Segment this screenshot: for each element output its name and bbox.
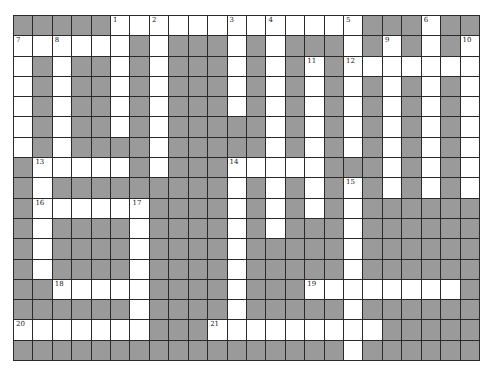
crossword-cell[interactable] (266, 77, 284, 96)
crossword-cell[interactable] (266, 138, 284, 157)
crossword-cell[interactable] (422, 36, 440, 55)
crossword-cell[interactable] (344, 77, 362, 96)
crossword-cell[interactable] (266, 320, 284, 339)
crossword-cell[interactable] (422, 97, 440, 116)
crossword-cell[interactable] (266, 219, 284, 238)
crossword-cell[interactable] (305, 16, 323, 35)
crossword-cell[interactable] (111, 158, 129, 177)
crossword-cell[interactable] (441, 57, 459, 76)
crossword-cell[interactable] (422, 77, 440, 96)
crossword-cell[interactable] (53, 138, 71, 157)
crossword-cell[interactable] (130, 280, 148, 299)
crossword-cell[interactable] (266, 57, 284, 76)
crossword-cell[interactable] (422, 57, 440, 76)
crossword-cell[interactable] (72, 36, 90, 55)
crossword-cell[interactable] (286, 320, 304, 339)
crossword-cell[interactable] (422, 158, 440, 177)
crossword-cell[interactable]: 1 (111, 16, 129, 35)
crossword-cell[interactable] (344, 341, 362, 360)
crossword-cell[interactable] (422, 280, 440, 299)
crossword-cell[interactable] (14, 77, 32, 96)
crossword-cell[interactable] (402, 280, 420, 299)
crossword-cell[interactable] (72, 280, 90, 299)
crossword-cell[interactable] (247, 16, 265, 35)
crossword-cell[interactable] (383, 57, 401, 76)
crossword-cell[interactable] (228, 320, 246, 339)
crossword-cell[interactable] (53, 320, 71, 339)
crossword-cell[interactable] (111, 57, 129, 76)
crossword-cell[interactable] (14, 117, 32, 136)
crossword-cell[interactable] (461, 158, 479, 177)
crossword-cell[interactable] (14, 97, 32, 116)
crossword-cell[interactable] (111, 320, 129, 339)
crossword-cell[interactable] (72, 199, 90, 218)
crossword-cell[interactable]: 12 (344, 57, 362, 76)
crossword-cell[interactable] (92, 36, 110, 55)
crossword-cell[interactable] (92, 199, 110, 218)
crossword-cell[interactable] (111, 36, 129, 55)
crossword-cell[interactable] (228, 280, 246, 299)
crossword-cell[interactable]: 10 (461, 36, 479, 55)
crossword-cell[interactable] (344, 300, 362, 319)
crossword-cell[interactable] (266, 178, 284, 197)
crossword-cell[interactable] (461, 138, 479, 157)
crossword-cell[interactable] (383, 178, 401, 197)
crossword-cell[interactable] (305, 178, 323, 197)
crossword-cell[interactable]: 19 (305, 280, 323, 299)
crossword-cell[interactable] (363, 57, 381, 76)
crossword-cell[interactable] (53, 117, 71, 136)
crossword-cell[interactable] (33, 239, 51, 258)
crossword-cell[interactable]: 3 (228, 16, 246, 35)
crossword-cell[interactable] (228, 97, 246, 116)
crossword-cell[interactable]: 17 (130, 199, 148, 218)
crossword-cell[interactable] (189, 16, 207, 35)
crossword-cell[interactable]: 18 (53, 280, 71, 299)
crossword-cell[interactable] (305, 97, 323, 116)
crossword-cell[interactable]: 2 (150, 16, 168, 35)
crossword-cell[interactable] (228, 77, 246, 96)
crossword-cell[interactable]: 7 (14, 36, 32, 55)
crossword-cell[interactable] (325, 16, 343, 35)
crossword-cell[interactable] (286, 158, 304, 177)
crossword-cell[interactable] (130, 219, 148, 238)
crossword-cell[interactable] (92, 320, 110, 339)
crossword-cell[interactable] (228, 219, 246, 238)
crossword-cell[interactable] (383, 117, 401, 136)
crossword-cell[interactable] (150, 117, 168, 136)
crossword-cell[interactable] (130, 320, 148, 339)
crossword-cell[interactable] (305, 199, 323, 218)
crossword-cell[interactable] (92, 280, 110, 299)
crossword-cell[interactable] (53, 158, 71, 177)
crossword-cell[interactable] (228, 199, 246, 218)
crossword-cell[interactable] (53, 57, 71, 76)
crossword-cell[interactable] (286, 16, 304, 35)
crossword-cell[interactable] (305, 320, 323, 339)
crossword-cell[interactable] (461, 77, 479, 96)
crossword-cell[interactable] (461, 97, 479, 116)
crossword-cell[interactable] (266, 199, 284, 218)
crossword-cell[interactable] (344, 117, 362, 136)
crossword-cell[interactable] (92, 158, 110, 177)
crossword-cell[interactable] (383, 97, 401, 116)
crossword-cell[interactable] (247, 158, 265, 177)
crossword-cell[interactable]: 5 (344, 16, 362, 35)
crossword-cell[interactable] (228, 36, 246, 55)
crossword-cell[interactable] (247, 320, 265, 339)
crossword-cell[interactable] (130, 16, 148, 35)
crossword-cell[interactable] (344, 138, 362, 157)
crossword-cell[interactable] (305, 77, 323, 96)
crossword-cell[interactable] (266, 36, 284, 55)
crossword-cell[interactable] (305, 158, 323, 177)
crossword-cell[interactable] (228, 57, 246, 76)
crossword-cell[interactable] (383, 158, 401, 177)
crossword-cell[interactable] (150, 57, 168, 76)
crossword-cell[interactable] (130, 300, 148, 319)
crossword-cell[interactable] (363, 280, 381, 299)
crossword-cell[interactable] (325, 280, 343, 299)
crossword-cell[interactable] (344, 97, 362, 116)
crossword-cell[interactable] (150, 36, 168, 55)
crossword-cell[interactable] (169, 16, 187, 35)
crossword-cell[interactable] (150, 158, 168, 177)
crossword-cell[interactable] (344, 320, 362, 339)
crossword-cell[interactable] (111, 199, 129, 218)
